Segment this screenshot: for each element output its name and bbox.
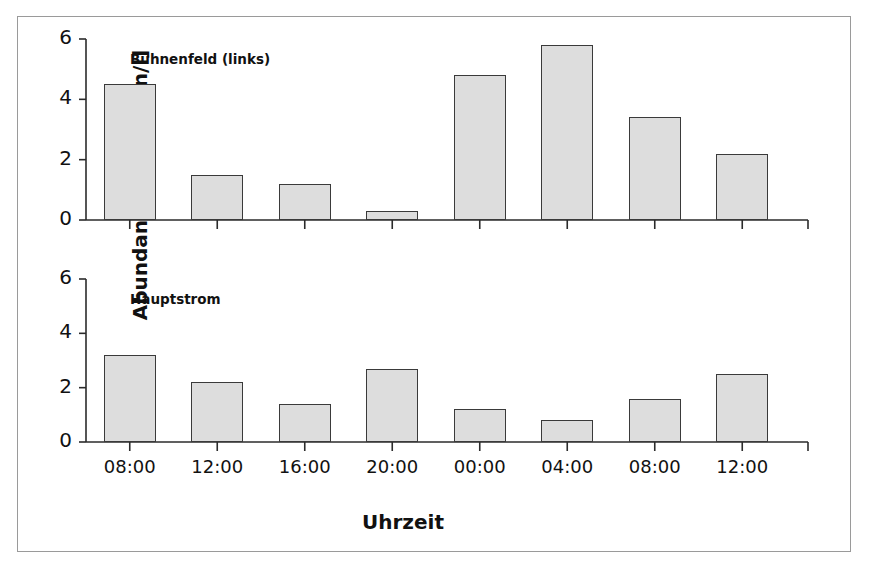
bar <box>629 117 681 220</box>
bar <box>191 382 243 442</box>
bar <box>366 369 418 442</box>
y-tick-label: 2 <box>48 374 72 398</box>
bar <box>104 84 156 220</box>
x-axis-title: Uhrzeit <box>18 510 788 534</box>
bar <box>279 404 331 442</box>
y-tick-label: 0 <box>48 206 72 230</box>
bar <box>454 75 506 220</box>
bar <box>541 45 593 220</box>
x-tick-label: 20:00 <box>347 456 437 477</box>
y-tick-label: 0 <box>48 428 72 452</box>
bar <box>629 399 681 442</box>
x-tick-label: 12:00 <box>697 456 787 477</box>
bar <box>191 175 243 220</box>
bar <box>716 374 768 442</box>
y-tick-label: 4 <box>48 319 72 343</box>
bar <box>541 420 593 442</box>
bar <box>279 184 331 220</box>
figure-frame: Abundanz [Individuen/l] Buhnenfeld (link… <box>17 16 851 552</box>
x-tick-label: 08:00 <box>85 456 175 477</box>
x-tick-label: 00:00 <box>435 456 525 477</box>
bar <box>716 154 768 220</box>
x-tick-label: 04:00 <box>522 456 612 477</box>
x-tick-label: 16:00 <box>260 456 350 477</box>
bar <box>454 409 506 442</box>
y-tick-label: 2 <box>48 146 72 170</box>
x-tick-label: 12:00 <box>172 456 262 477</box>
y-tick-label: 4 <box>48 85 72 109</box>
x-tick-label: 08:00 <box>610 456 700 477</box>
y-tick-label: 6 <box>48 265 72 289</box>
bar <box>366 211 418 220</box>
bar <box>104 355 156 442</box>
axis-lines <box>86 279 826 482</box>
y-tick-label: 6 <box>48 25 72 49</box>
